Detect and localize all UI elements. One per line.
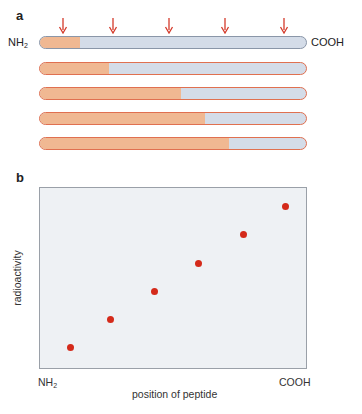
labeled-segment: [40, 138, 229, 149]
cleavage-arrow-icon: [164, 18, 174, 34]
labeled-segment: [40, 37, 80, 48]
cleavage-arrow-icon: [279, 18, 289, 34]
nh2-terminus-label: NH2: [8, 36, 28, 49]
panel-b-label: b: [16, 170, 24, 185]
x-axis-label: position of peptide: [132, 388, 217, 400]
y-axis-label: radioactivity: [11, 250, 23, 305]
peptide-bar: [39, 87, 307, 100]
nh2-subscript: 2: [24, 42, 28, 49]
data-point: [240, 231, 247, 238]
x-tick-nh2-text: NH: [38, 376, 53, 388]
x-tick-nh2-sub: 2: [53, 382, 57, 389]
cleavage-arrow-icon: [58, 18, 68, 34]
peptide-bar: [39, 137, 307, 150]
peptide-bar: [39, 112, 307, 125]
cleavage-arrow-icon: [108, 18, 118, 34]
cleavage-arrow-icon: [220, 18, 230, 34]
data-point: [151, 288, 158, 295]
peptide-bar: [39, 36, 307, 49]
data-point: [67, 344, 74, 351]
scatter-plot-area: [39, 187, 307, 369]
labeled-segment: [40, 63, 109, 74]
labeled-segment: [40, 113, 205, 124]
peptide-bar: [39, 62, 307, 75]
panel-a-label: a: [16, 8, 23, 23]
data-point: [107, 316, 114, 323]
labeled-segment: [40, 88, 181, 99]
x-tick-nh2: NH2: [38, 376, 57, 389]
x-tick-cooh: COOH: [279, 376, 311, 388]
data-point: [195, 260, 202, 267]
cooh-terminus-label: COOH: [311, 36, 344, 48]
data-point: [282, 203, 289, 210]
nh2-text: NH: [8, 36, 24, 48]
